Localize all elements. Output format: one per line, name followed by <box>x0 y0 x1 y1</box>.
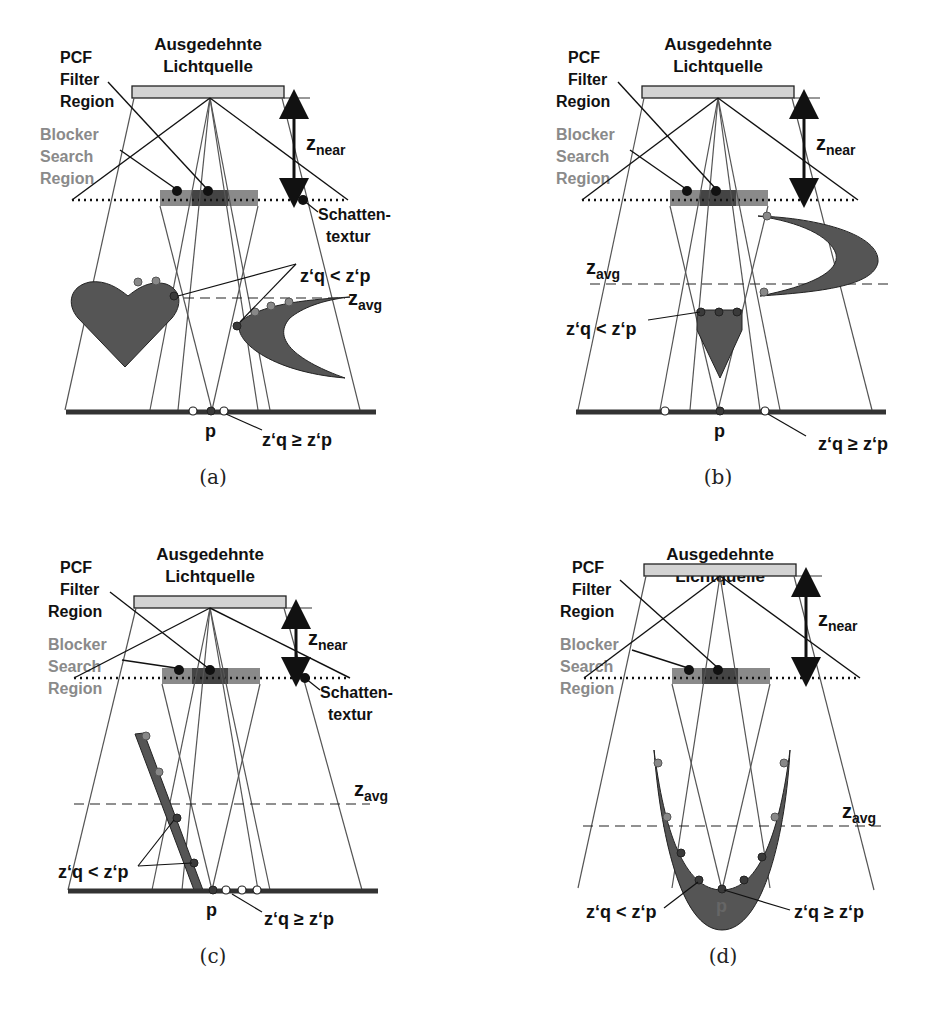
svg-text:Search: Search <box>48 658 101 675</box>
svg-text:p: p <box>714 421 725 441</box>
svg-text:zavg: zavg <box>354 778 388 804</box>
svg-text:Blocker: Blocker <box>48 636 107 653</box>
z-near-label: znear <box>306 132 346 158</box>
svg-text:Region: Region <box>560 603 614 620</box>
panel-d: Ausgedehnte Lichtquelle PCF Filter Regio… <box>560 545 885 968</box>
light-source <box>132 86 284 98</box>
pcf-label-3: Region <box>60 93 114 110</box>
blocker-label-1: Blocker <box>40 126 99 143</box>
svg-text:Region: Region <box>48 603 102 620</box>
crescent-occluder <box>758 216 878 296</box>
svg-text:Ausgedehnte: Ausgedehnte <box>666 545 774 564</box>
cone-occluder <box>697 310 742 378</box>
svg-text:Region: Region <box>48 680 102 697</box>
svg-text:Lichtquelle: Lichtquelle <box>673 57 763 76</box>
svg-text:Search: Search <box>556 148 609 165</box>
blocker-label-2: Search <box>40 148 93 165</box>
svg-text:znear: znear <box>818 608 858 634</box>
svg-text:z‘q ≥ z‘p: z‘q ≥ z‘p <box>264 909 334 929</box>
svg-text:p: p <box>716 896 727 916</box>
svg-text:Blocker: Blocker <box>560 636 619 653</box>
svg-text:Ausgedehnte: Ausgedehnte <box>156 545 264 564</box>
svg-text:PCF: PCF <box>568 49 600 66</box>
svg-text:Filter: Filter <box>572 581 611 598</box>
light-source <box>642 86 794 98</box>
svg-text:Region: Region <box>560 680 614 697</box>
blocker-label-3: Region <box>40 170 94 187</box>
zq-ge-zp-label: z‘q ≥ z‘p <box>262 430 332 450</box>
svg-text:z‘q ≥ z‘p: z‘q ≥ z‘p <box>794 902 864 922</box>
svg-text:PCF: PCF <box>60 559 92 576</box>
shadow-texture-label-2: textur <box>326 228 370 245</box>
pcf-label-2: Filter <box>60 71 99 88</box>
svg-text:znear: znear <box>816 132 856 158</box>
svg-text:textur: textur <box>328 706 372 723</box>
pcf-label-1: PCF <box>60 49 92 66</box>
light-title-2: Lichtquelle <box>163 57 253 76</box>
zq-less-zp-label: z‘q < z‘p <box>300 266 371 286</box>
svg-text:z‘q < z‘p: z‘q < z‘p <box>566 319 637 339</box>
z-avg-label: zavg <box>348 287 382 313</box>
svg-text:Schatten-: Schatten- <box>320 684 393 701</box>
panel-c: Ausgedehnte Lichtquelle PCF Filter Regio… <box>48 545 393 968</box>
point-p-label: p <box>205 421 216 441</box>
svg-text:Region: Region <box>556 93 610 110</box>
svg-text:Blocker: Blocker <box>556 126 615 143</box>
svg-text:znear: znear <box>308 627 348 653</box>
svg-text:Lichtquelle: Lichtquelle <box>165 567 255 586</box>
caption-a: (a) <box>199 465 227 489</box>
svg-text:Filter: Filter <box>60 581 99 598</box>
svg-text:z‘q < z‘p: z‘q < z‘p <box>58 862 129 882</box>
caption-c: (c) <box>200 944 227 968</box>
panel-b: Ausgedehnte Lichtquelle PCF Filter Regio… <box>556 35 890 489</box>
svg-text:z‘q ≥ z‘p: z‘q ≥ z‘p <box>818 434 888 454</box>
svg-text:Ausgedehnte: Ausgedehnte <box>664 35 772 54</box>
panel-a: Ausgedehnte Lichtquelle PCF Filter Regio… <box>40 35 391 489</box>
svg-text:Filter: Filter <box>568 71 607 88</box>
light-title-1: Ausgedehnte <box>154 35 262 54</box>
heart-occluder <box>71 282 179 367</box>
shadow-texture-label-1: Schatten- <box>318 206 391 223</box>
svg-text:zavg: zavg <box>586 256 620 282</box>
caption-b: (b) <box>704 465 732 489</box>
svg-text:PCF: PCF <box>572 559 604 576</box>
svg-text:z‘q < z‘p: z‘q < z‘p <box>586 902 657 922</box>
caption-d: (d) <box>709 944 737 968</box>
svg-text:Search: Search <box>560 658 613 675</box>
svg-text:zavg: zavg <box>842 800 876 826</box>
figure-canvas: Ausgedehnte Lichtquelle PCF Filter Regio… <box>0 0 936 1011</box>
svg-text:p: p <box>206 900 217 920</box>
